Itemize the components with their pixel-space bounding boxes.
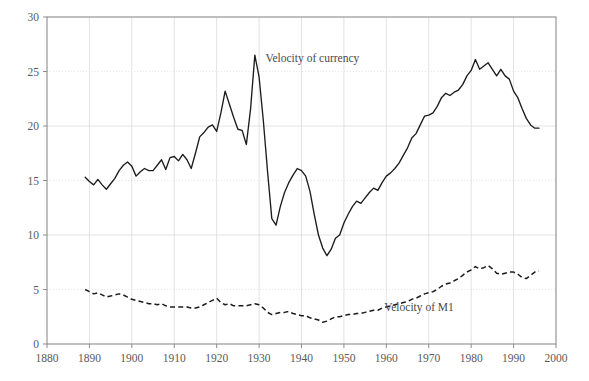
x-tick-label-1940: 1940 — [290, 352, 313, 364]
x-axis-tick-labels: 1880189019001910192019301940195019601970… — [36, 352, 568, 364]
y-tick-label-25: 25 — [28, 66, 40, 78]
y-tick-label-5: 5 — [33, 284, 39, 296]
label-velocity-of-m1: Velocity of M1 — [384, 301, 454, 314]
x-tick-label-1990: 1990 — [502, 352, 525, 364]
x-tick-label-1980: 1980 — [460, 352, 483, 364]
y-axis-tick-labels: 051015202530 — [28, 11, 40, 350]
x-tick-label-1920: 1920 — [205, 352, 228, 364]
x-tick-label-1880: 1880 — [36, 352, 59, 364]
x-tick-label-1950: 1950 — [332, 352, 355, 364]
series-annotations: Velocity of currencyVelocity of M1 — [265, 52, 454, 314]
y-tick-label-15: 15 — [28, 175, 40, 187]
x-tick-label-1960: 1960 — [375, 352, 398, 364]
x-tick-label-1900: 1900 — [120, 352, 143, 364]
x-tick-label-2000: 2000 — [545, 352, 568, 364]
x-tick-label-1970: 1970 — [417, 352, 440, 364]
y-tick-label-0: 0 — [33, 338, 39, 350]
x-tick-label-1930: 1930 — [248, 352, 271, 364]
x-tick-label-1910: 1910 — [163, 352, 186, 364]
x-tick-label-1890: 1890 — [78, 352, 101, 364]
label-velocity-of-currency: Velocity of currency — [265, 52, 359, 65]
velocity-line-chart: 051015202530 188018901900191019201930194… — [0, 0, 589, 381]
y-tick-label-20: 20 — [28, 120, 40, 132]
y-tick-label-30: 30 — [28, 11, 40, 23]
y-tick-label-10: 10 — [28, 229, 40, 241]
chart-figure: 051015202530 188018901900191019201930194… — [0, 0, 589, 381]
